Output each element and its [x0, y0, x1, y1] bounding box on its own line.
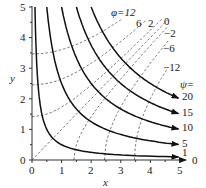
y-tick-1: 1	[20, 123, 26, 135]
streamlines	[35, 7, 179, 157]
x-tick-1: 1	[59, 164, 65, 176]
phi-label-12: φ=12	[111, 6, 136, 18]
y-axis-label: y	[9, 72, 15, 84]
axes	[32, 6, 186, 160]
psi-label-20: 20	[182, 90, 194, 102]
psi-label-15: 15	[182, 106, 194, 118]
psi-label-10: 10	[182, 121, 194, 133]
phi-label-neg2: −2	[164, 27, 176, 39]
phi-label-neg12: −12	[163, 61, 180, 73]
potential-line-phi--2	[32, 19, 162, 117]
y-tick-0: 0	[20, 154, 26, 166]
flow-net-chart: 0 1 2 3 4 5 x 0 1 2 3 4 5 y φ=12 6 2 0 −…	[0, 0, 206, 188]
x-tick-5: 5	[177, 164, 183, 176]
x-tick-3: 3	[118, 164, 124, 176]
potential-line-phi--12	[32, 19, 122, 54]
y-tick-4: 4	[20, 31, 26, 43]
phi-label-2: 2	[148, 17, 154, 29]
psi-label-prefix: ψ=	[180, 78, 194, 90]
streamline-psi-1	[35, 7, 179, 157]
psi-label-1: 1	[182, 146, 188, 158]
y-tick-2: 2	[20, 93, 26, 105]
y-tick-3: 3	[20, 62, 26, 74]
phi-label-6: 6	[136, 17, 142, 29]
x-tick-2: 2	[88, 164, 94, 176]
x-axis-label: x	[102, 176, 108, 188]
phi-label-0: 0	[164, 15, 170, 27]
psi-label-0: 0	[192, 154, 198, 166]
potential-line-phi-12	[135, 67, 169, 160]
phi-label-neg6: −6	[163, 42, 175, 54]
x-tick-0: 0	[29, 164, 35, 176]
x-tick-4: 4	[147, 164, 153, 176]
y-tick-5: 5	[20, 1, 26, 13]
potential-line-phi-2	[74, 26, 168, 160]
